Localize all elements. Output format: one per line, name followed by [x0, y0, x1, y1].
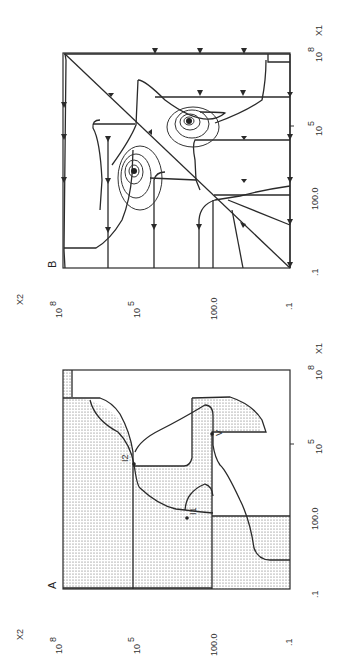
- trajectories-b: [64, 54, 290, 268]
- x-tick-0: .1: [310, 268, 320, 276]
- y-tick-1: 100.0: [209, 633, 219, 656]
- panel-b: B .1 100.0 10 5 10 8 X1 X2 10 8 10 5 100…: [15, 25, 324, 320]
- y-tick-2: 10: [132, 308, 142, 318]
- panel-label-a: A: [46, 581, 58, 589]
- y-tick-3: 10: [54, 644, 64, 654]
- label-i2: I2: [120, 454, 130, 462]
- x-tick-3-exp: 8: [306, 365, 316, 370]
- x-axis-b: .1 100.0 10 5 10 8 X1: [290, 25, 324, 276]
- y-axis-a: X2 10 8 10 5 100.0 .1: [15, 629, 294, 656]
- y-tick-2: 10: [132, 644, 142, 654]
- panel-a: I1 I2 V A .1 100.0 10 5 10 8 X1 X2 10 8 …: [15, 343, 324, 656]
- y-tick-0: .1: [284, 302, 294, 310]
- y-axis-b: X2 10 8 10 5 100.0 .1: [15, 294, 294, 320]
- x-tick-2: 10: [314, 126, 324, 136]
- x-tick-0: .1: [310, 590, 320, 598]
- y-axis-label: X2: [15, 629, 25, 640]
- x-tick-2-exp: 5: [306, 439, 316, 444]
- panel-label-b: B: [46, 261, 58, 268]
- x-tick-2-exp: 5: [306, 121, 316, 126]
- x-axis-label: X1: [314, 343, 324, 354]
- figure: B .1 100.0 10 5 10 8 X1 X2 10 8 10 5 100…: [0, 0, 338, 664]
- spiral-focus-2: [167, 60, 266, 147]
- y-tick-0: .1: [284, 638, 294, 646]
- y-tick-1: 100.0: [209, 297, 219, 320]
- y-tick-3-exp: 8: [48, 301, 58, 306]
- x-axis-label: X1: [314, 25, 324, 36]
- label-v: V: [214, 430, 224, 436]
- x-tick-3-exp: 8: [306, 47, 316, 52]
- arrowheads-b: [61, 48, 293, 268]
- y-tick-3-exp: 8: [48, 637, 58, 642]
- x-axis-a: .1 100.0 10 5 10 8 X1: [290, 343, 324, 598]
- y-tick-3: 10: [54, 308, 64, 318]
- y-axis-label: X2: [15, 294, 25, 305]
- y-tick-2-exp: 5: [126, 637, 136, 642]
- x-tick-2: 10: [314, 444, 324, 454]
- x-tick-1: 100.0: [310, 187, 320, 210]
- label-i1: I1: [188, 507, 198, 515]
- x-tick-1: 100.0: [310, 507, 320, 530]
- x-tick-3: 10: [314, 52, 324, 62]
- spiral-focus-1: [118, 146, 200, 210]
- y-tick-2-exp: 5: [126, 301, 136, 306]
- x-tick-3: 10: [314, 370, 324, 380]
